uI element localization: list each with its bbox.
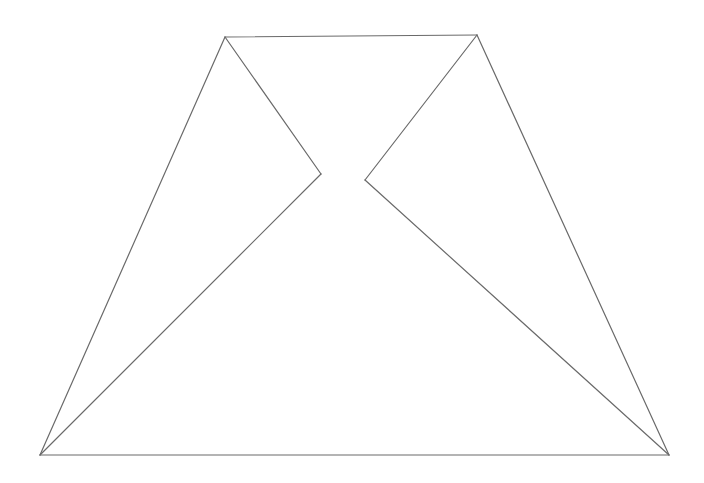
diagram-canvas (0, 0, 704, 483)
diagram-edges (40, 35, 669, 455)
right-notch-upper-edge (365, 35, 477, 180)
top-edge (225, 35, 477, 37)
left-outer-edge (40, 37, 225, 455)
left-notch-lower-edge (40, 174, 321, 455)
left-notch-upper-edge (225, 37, 321, 174)
right-notch-lower-edge (365, 180, 669, 455)
right-outer-edge (477, 35, 669, 455)
